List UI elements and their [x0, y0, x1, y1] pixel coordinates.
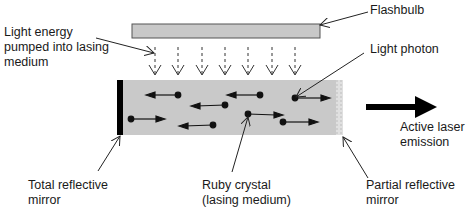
pump-arrow-icon	[196, 47, 208, 75]
label-light-photon: Light photon	[370, 42, 439, 57]
label-total-mirror: Total reflective mirror	[28, 178, 108, 208]
label-partial-mirror: Partial reflective mirror	[366, 178, 455, 208]
label-active-emission: Active laser emission	[400, 120, 465, 150]
partial-mirror	[336, 80, 343, 135]
label-ruby-crystal: Ruby crystal (lasing medium)	[202, 178, 291, 208]
pump-arrow-icon	[289, 47, 301, 75]
pump-arrows	[149, 47, 301, 75]
pump-arrow-icon	[219, 47, 231, 75]
partial-mirror-leader	[343, 137, 368, 178]
flashbulb	[132, 24, 320, 38]
label-light-energy: Light energy pumped into lasing medium	[4, 25, 109, 70]
total-mirror	[117, 80, 123, 135]
total-mirror-leader	[98, 136, 120, 171]
pump-arrow-icon	[242, 47, 254, 75]
label-flashbulb: Flashbulb	[370, 3, 424, 18]
emission-arrow-icon	[366, 96, 437, 118]
flashbulb-leader	[320, 12, 368, 25]
pump-arrow-icon	[172, 47, 184, 75]
pump-arrow-icon	[266, 47, 278, 75]
pump-arrow-icon	[149, 47, 161, 75]
